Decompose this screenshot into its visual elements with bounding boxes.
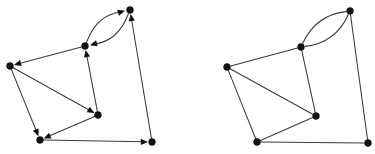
graph-edge xyxy=(87,54,98,111)
arrow-head xyxy=(141,139,148,145)
arrow-head xyxy=(14,60,22,66)
graph-node xyxy=(298,44,305,51)
graph-edge xyxy=(230,69,313,114)
graph-node xyxy=(7,63,14,70)
graph-edge xyxy=(302,51,315,113)
graph-node xyxy=(347,8,354,15)
graph-edge xyxy=(351,15,368,140)
graph-edge xyxy=(94,14,128,44)
arrow-head xyxy=(33,128,39,136)
graph-edge xyxy=(18,47,81,64)
arrow-head xyxy=(90,40,98,46)
edges-layer xyxy=(11,12,367,143)
graph-edge xyxy=(87,12,121,42)
graph-node xyxy=(254,139,261,146)
graph-edge xyxy=(260,117,312,140)
graph-edge xyxy=(231,48,298,66)
nodes-layer xyxy=(7,7,372,147)
graph-node xyxy=(149,139,156,146)
arrow-head xyxy=(117,10,125,16)
graph-node xyxy=(37,137,44,144)
graph-canvas xyxy=(0,0,375,154)
graph-edge xyxy=(44,140,144,142)
graph-node xyxy=(127,7,134,14)
graph-node xyxy=(365,140,372,147)
arrow-head xyxy=(129,14,135,22)
graph-node xyxy=(224,64,231,71)
arrow-head xyxy=(84,50,90,58)
graph-edge xyxy=(13,68,90,111)
graph-edge xyxy=(48,116,95,136)
graph-edge xyxy=(303,12,346,44)
graph-edge xyxy=(131,18,151,138)
graph-node xyxy=(95,112,102,119)
graph-node xyxy=(313,113,320,120)
graph-node xyxy=(82,43,89,50)
graph-edge xyxy=(305,15,348,47)
graph-pair-figure xyxy=(0,0,375,154)
graph-edge xyxy=(261,142,365,143)
